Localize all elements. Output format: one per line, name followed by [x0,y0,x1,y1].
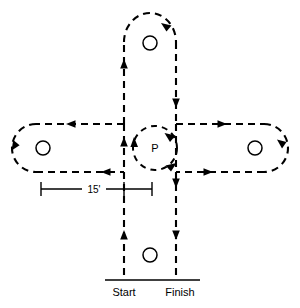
right-cone-icon [248,141,262,155]
left-lobe-top-arrow [66,120,76,128]
pivot-loop-bottom-arrow [166,163,177,172]
bottom-cone-icon [143,248,157,262]
top-arc-arrow [161,23,172,32]
center-left-up-arrow [120,137,128,147]
left-cone-icon [36,141,50,155]
right-lobe-arc [264,124,288,172]
finish-leg-down-arrow-1 [172,179,180,189]
right-lobe-top-arrow [218,120,228,128]
dimension-label: 15' [87,184,100,195]
finish-leg-down-arrow-2 [172,231,180,241]
finish-label: Finish [165,286,194,298]
right-arc-arrow [277,140,287,149]
top-lobe-down-arrow [172,99,180,109]
right-lobe-bottom-arrow [204,168,214,176]
left-lobe-bottom-arrow [101,168,111,176]
top-cone-icon [143,36,157,50]
pattern-svg: P 15' Start Finish [0,0,300,308]
pivot-entry-up-arrow [130,137,138,147]
start-leg-up-arrow-1 [120,230,128,240]
start-label: Start [112,286,135,298]
top-lobe-up-arrow [120,59,128,69]
pivot-label: P [151,142,158,154]
left-lobe-arc [12,124,36,172]
course-diagram: P 15' Start Finish [0,0,300,308]
